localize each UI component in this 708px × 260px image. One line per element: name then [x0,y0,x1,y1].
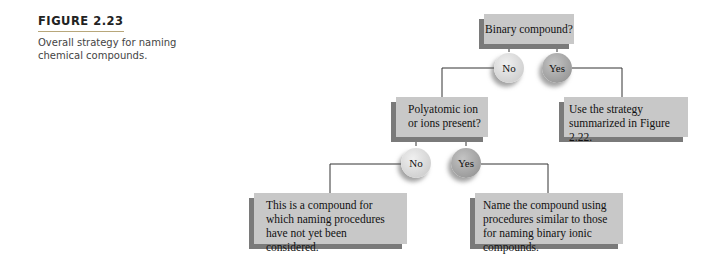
use-strategy-box: Use the strategy summarized in Figure 2.… [564,97,688,137]
name-compound-box: Name the compound using procedures simil… [475,193,623,244]
level2-yes-label: Yes [458,157,474,169]
level1-yes-label: Yes [549,62,565,74]
level1-no-node: No [494,53,524,83]
level1-yes-node: Yes [542,53,572,83]
root-question-text: Binary compound? [485,23,573,35]
polyatomic-question-box: Polyatomic ion or ions present? [396,97,488,137]
not-considered-box: This is a compound for which naming proc… [254,193,407,244]
level1-no-label: No [502,62,515,74]
level2-yes-node: Yes [451,148,481,178]
polyatomic-question-text: Polyatomic ion or ions present? [408,103,481,129]
level2-no-label: No [409,157,422,169]
flowchart: Binary compound? No Yes Polyatomic ion o… [0,0,708,260]
root-question-box: Binary compound? [484,14,574,44]
level2-no-node: No [401,148,431,178]
